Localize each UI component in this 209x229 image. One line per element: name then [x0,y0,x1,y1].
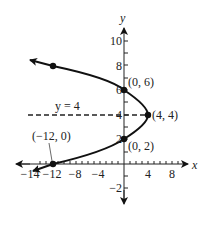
point-m12-8 [50,63,56,69]
y-axis-label: y [119,11,126,25]
x-tick-labels: −14 −12 −8 −4 4 8 [21,167,175,181]
parabola-graph: x −14 −12 −8 −4 4 8 y 10 [0,0,209,229]
x-tick-label: −12 [43,167,62,181]
label-0-6: (0, 6) [128,75,154,89]
label-m12-0: (−12, 0) [32,129,71,143]
point-4-4 [145,112,151,118]
label-4-4: (4, 4) [152,108,178,122]
x-tick-label: −8 [69,167,82,181]
y-tick-label: 8 [116,59,122,73]
x-axis: x −14 −12 −8 −4 4 8 [16,158,198,181]
y-axis: y 10 8 6 4 2 −2 [109,11,128,204]
point-0-2 [121,136,127,142]
y-tick-label: 10 [110,34,122,48]
y-tick-label: −2 [109,181,122,195]
x-tick-label: 8 [169,167,175,181]
point-m12-0 [50,161,56,167]
x-tick-label: 4 [145,167,151,181]
x-axis-label: x [191,158,198,172]
top-arrow [30,60,53,66]
label-0-2: (0, 2) [128,139,154,153]
x-tick-label: −4 [92,167,105,181]
label-m12-0-leader [49,143,52,161]
symmetry-line-label: y = 4 [55,99,80,113]
point-0-6 [121,87,127,93]
